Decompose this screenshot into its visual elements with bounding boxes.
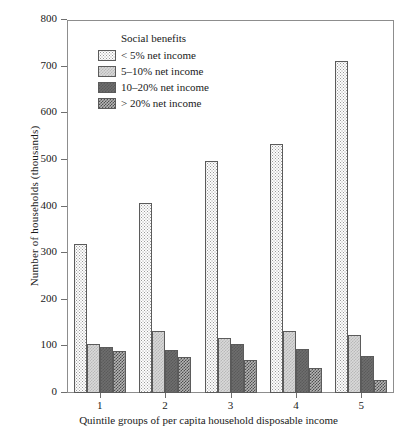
bar (152, 331, 165, 393)
y-tick-label: 700 (0, 59, 57, 71)
bar (244, 360, 257, 393)
bar (309, 368, 322, 393)
y-tick-mark (61, 19, 67, 20)
bar (296, 349, 309, 393)
x-tick-mark (165, 393, 166, 398)
legend-label: 5–10% net income (121, 65, 203, 77)
legend-item: < 5% net income (98, 49, 209, 61)
bar (218, 338, 231, 393)
x-tick-mark (100, 393, 101, 398)
y-tick-mark (61, 345, 67, 346)
x-tick-label: 3 (217, 399, 245, 411)
x-tick-mark (296, 393, 297, 398)
x-tick-label: 4 (282, 399, 310, 411)
bar (74, 244, 87, 393)
bar (361, 356, 374, 393)
legend-item: 10–20% net income (98, 81, 209, 93)
legend-entries: < 5% net income5–10% net income10–20% ne… (98, 49, 209, 109)
y-tick-mark (61, 299, 67, 300)
legend-swatch (98, 98, 116, 109)
bar (335, 61, 348, 393)
bar (231, 344, 244, 393)
y-tick-mark (61, 66, 67, 67)
y-tick-mark (61, 206, 67, 207)
x-tick-label: 2 (151, 399, 179, 411)
y-tick-mark (61, 159, 67, 160)
legend-label: > 20% net income (121, 97, 201, 109)
x-axis-label: Quintile groups of per capita household … (0, 414, 417, 426)
bar (165, 350, 178, 393)
legend-title: Social benefits (121, 32, 209, 44)
x-tick-label: 5 (347, 399, 375, 411)
legend-swatch (98, 50, 116, 61)
bar (113, 351, 126, 393)
x-tick-mark (231, 393, 232, 398)
bar (348, 335, 361, 393)
bar (178, 357, 191, 393)
bar (100, 347, 113, 393)
x-tick-mark (361, 393, 362, 398)
y-tick-label: 300 (0, 245, 57, 257)
y-tick-label: 800 (0, 12, 57, 24)
bar (87, 344, 100, 393)
legend-swatch (98, 66, 116, 77)
y-tick-label: 100 (0, 338, 57, 350)
y-tick-label: 500 (0, 152, 57, 164)
y-tick-mark (61, 112, 67, 113)
bar (205, 161, 218, 393)
legend: Social benefits < 5% net income5–10% net… (98, 32, 209, 113)
y-tick-label: 200 (0, 292, 57, 304)
bar (139, 203, 152, 393)
x-tick-label: 1 (86, 399, 114, 411)
y-tick-label: 0 (0, 385, 57, 397)
legend-item: > 20% net income (98, 97, 209, 109)
y-tick-mark (61, 392, 67, 393)
legend-label: < 5% net income (121, 49, 196, 61)
legend-label: 10–20% net income (121, 81, 209, 93)
y-tick-mark (61, 252, 67, 253)
bar (270, 144, 283, 393)
legend-swatch (98, 82, 116, 93)
legend-item: 5–10% net income (98, 65, 209, 77)
bar (374, 380, 387, 393)
y-tick-label: 400 (0, 199, 57, 211)
bar (283, 331, 296, 393)
y-tick-label: 600 (0, 105, 57, 117)
bar-chart: Number of households (thousands) 0100200… (0, 0, 417, 436)
